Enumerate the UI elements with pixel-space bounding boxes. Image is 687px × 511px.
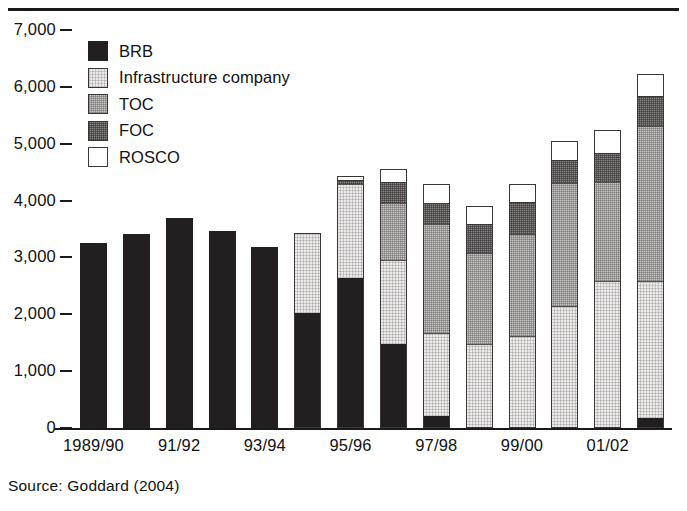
y-axis-tick-label: 4,000 — [14, 191, 56, 210]
bar-segment-infra — [466, 344, 493, 428]
x-axis-tick-label: 93/94 — [244, 436, 286, 455]
y-axis-tick — [60, 200, 72, 202]
bar-segment-rosco — [509, 184, 536, 202]
bar-segment-brb — [123, 234, 150, 428]
x-axis-line — [54, 428, 672, 430]
bar-segment-toc — [423, 224, 450, 333]
legend-item-label: FOC — [119, 121, 154, 140]
y-axis-tick — [60, 370, 72, 372]
legend-item-label: TOC — [119, 95, 154, 114]
bar-segment-rosco — [466, 206, 493, 224]
bar-92-93[interactable] — [209, 231, 236, 428]
bar-segment-brb — [166, 218, 193, 428]
bar-segment-toc — [466, 253, 493, 344]
x-axis-tick-label: 1989/90 — [63, 436, 124, 455]
y-axis-tick-label: 5,000 — [14, 134, 56, 153]
bar-segment-toc — [637, 126, 664, 282]
bar-segment-infra — [380, 260, 407, 344]
bar-segment-brb — [294, 313, 321, 428]
y-axis-tick — [60, 427, 72, 429]
bar-segment-foc — [509, 202, 536, 234]
bar-99-00[interactable] — [509, 184, 536, 428]
figure-container: BRBInfrastructure companyTOCFOCROSCO Sou… — [0, 0, 687, 511]
bar-segment-infra — [423, 333, 450, 416]
bar-91-92[interactable] — [166, 218, 193, 428]
bar-segment-brb — [637, 418, 664, 428]
bar-segment-toc — [509, 234, 536, 336]
source-note: Source: Goddard (2004) — [8, 477, 180, 495]
bar-segment-brb — [337, 278, 364, 428]
bar-segment-brb — [380, 344, 407, 428]
bar-01-02[interactable] — [594, 130, 621, 429]
bar-segment-infra — [551, 306, 578, 428]
bar-90-91[interactable] — [123, 234, 150, 428]
legend-item-label: Infrastructure company — [119, 68, 290, 87]
bar-segment-rosco — [594, 130, 621, 154]
bar-segment-brb — [423, 416, 450, 428]
legend-item-brb[interactable]: BRB — [88, 38, 290, 65]
legend-item-foc[interactable]: FOC — [88, 118, 290, 145]
bar-segment-foc — [466, 224, 493, 253]
bar-segment-rosco — [423, 184, 450, 203]
y-axis-tick-label: 0 — [47, 418, 56, 437]
x-axis-tick-label: 99/00 — [501, 436, 543, 455]
bar-segment-infra — [337, 184, 364, 278]
x-axis-tick-label: 91/92 — [158, 436, 200, 455]
bar-95-96[interactable] — [337, 176, 364, 428]
bar-02-03[interactable] — [637, 74, 664, 428]
bar-segment-infra — [637, 281, 664, 417]
bar-segment-foc — [423, 203, 450, 224]
bar-segment-foc — [551, 160, 578, 183]
legend-swatch-foc-icon — [88, 121, 108, 141]
x-axis-tick-label: 97/98 — [415, 436, 457, 455]
y-axis-tick — [60, 86, 72, 88]
legend-swatch-brb-icon — [88, 41, 108, 61]
bar-segment-brb — [251, 247, 278, 428]
bar-segment-brb — [209, 231, 236, 428]
y-axis-tick-label: 6,000 — [14, 77, 56, 96]
y-axis-tick — [60, 256, 72, 258]
y-axis-tick — [60, 143, 72, 145]
bar-segment-toc — [551, 183, 578, 306]
legend-swatch-toc-icon — [88, 94, 108, 114]
y-axis-tick-label: 3,000 — [14, 248, 56, 267]
y-axis-tick-label: 7,000 — [14, 20, 56, 39]
y-axis-tick-label: 2,000 — [14, 304, 56, 323]
bar-1989-90[interactable] — [80, 243, 107, 428]
legend-swatch-infra-icon — [88, 68, 108, 88]
bar-segment-brb — [80, 243, 107, 428]
y-axis-tick-label: 1,000 — [14, 361, 56, 380]
bar-segment-foc — [380, 182, 407, 203]
legend-item-toc[interactable]: TOC — [88, 91, 290, 118]
bar-segment-foc — [637, 96, 664, 126]
bar-segment-foc — [594, 153, 621, 182]
legend-item-infra[interactable]: Infrastructure company — [88, 65, 290, 92]
y-axis-tick — [60, 29, 72, 31]
y-axis-tick — [60, 313, 72, 315]
legend-item-rosco[interactable]: ROSCO — [88, 144, 290, 171]
x-axis-tick-label: 01/02 — [587, 436, 629, 455]
bar-segment-rosco — [551, 141, 578, 160]
legend: BRBInfrastructure companyTOCFOCROSCO — [88, 38, 290, 171]
legend-item-label: BRB — [119, 42, 153, 61]
bar-94-95[interactable] — [294, 233, 321, 428]
legend-item-label: ROSCO — [119, 148, 180, 167]
bar-segment-infra — [594, 281, 621, 428]
bar-96-97[interactable] — [380, 169, 407, 428]
bar-segment-toc — [594, 182, 621, 281]
bar-segment-infra — [294, 233, 321, 313]
legend-swatch-rosco-icon — [88, 147, 108, 167]
bar-segment-infra — [509, 336, 536, 428]
x-axis-tick-label: 95/96 — [329, 436, 371, 455]
bar-segment-toc — [380, 203, 407, 260]
bar-00-01[interactable] — [551, 141, 578, 428]
bar-98-99[interactable] — [466, 206, 493, 428]
top-divider-rule — [8, 8, 679, 11]
bar-93-94[interactable] — [251, 247, 278, 428]
bar-segment-rosco — [637, 74, 664, 96]
bar-97-98[interactable] — [423, 184, 450, 428]
bar-segment-rosco — [380, 169, 407, 183]
